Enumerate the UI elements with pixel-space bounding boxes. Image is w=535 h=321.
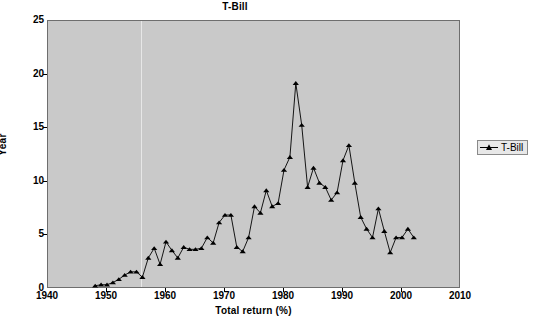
- legend: T-Bill: [477, 140, 528, 155]
- x-tick-mark: [224, 288, 225, 292]
- data-point-marker: [181, 245, 187, 249]
- data-point-marker: [163, 240, 169, 244]
- data-point-marker: [352, 181, 358, 185]
- y-tick-mark: [43, 74, 47, 75]
- data-point-marker: [275, 201, 281, 205]
- y-tick-mark: [43, 181, 47, 182]
- data-point-marker: [369, 235, 375, 239]
- data-point-marker: [381, 229, 387, 233]
- data-point-marker: [169, 248, 175, 252]
- data-point-marker: [334, 190, 340, 194]
- data-point-marker: [387, 250, 393, 254]
- chart-title: T-Bill: [0, 1, 470, 12]
- x-axis-title: Total return (%): [47, 305, 460, 316]
- legend-label-t-bill: T-Bill: [501, 142, 523, 153]
- data-point-marker: [151, 246, 157, 250]
- x-tick-mark: [342, 288, 343, 292]
- data-point-marker: [299, 123, 305, 127]
- data-point-marker: [340, 158, 346, 162]
- data-point-marker: [281, 168, 287, 172]
- y-tick-label: 20: [16, 68, 44, 79]
- series-line-t-bill: [95, 83, 414, 286]
- data-point-marker: [287, 155, 293, 159]
- data-point-marker: [263, 188, 269, 192]
- data-point-marker: [251, 204, 257, 208]
- x-tick-mark: [165, 288, 166, 292]
- y-tick-label: 25: [16, 14, 44, 25]
- data-point-marker: [346, 143, 352, 147]
- data-point-marker: [305, 185, 311, 189]
- data-series-layer: [48, 21, 461, 289]
- data-point-marker: [405, 227, 411, 231]
- plot-area: [47, 20, 460, 288]
- legend-marker-icon: [480, 142, 498, 153]
- data-point-marker: [246, 235, 252, 239]
- data-point-marker: [234, 245, 240, 249]
- data-point-marker: [358, 215, 364, 219]
- data-point-marker: [375, 206, 381, 210]
- data-point-marker: [364, 227, 370, 231]
- x-tick-mark: [106, 288, 107, 292]
- y-axis-title: Year: [0, 133, 8, 155]
- data-point-marker: [293, 81, 299, 85]
- y-tick-label: 5: [16, 228, 44, 239]
- data-point-marker: [328, 198, 334, 202]
- chart-container: T-Bill Year 0510152025 19401950196019701…: [0, 0, 535, 321]
- y-tick-label: 15: [16, 121, 44, 132]
- x-tick-mark: [401, 288, 402, 292]
- y-tick-label: 10: [16, 175, 44, 186]
- data-point-marker: [411, 235, 417, 239]
- y-tick-mark: [43, 127, 47, 128]
- data-point-marker: [204, 235, 210, 239]
- x-tick-label: 2010: [440, 290, 480, 301]
- x-axis-tick-labels: 19401950196019701980199020002010: [0, 290, 535, 304]
- y-tick-mark: [43, 234, 47, 235]
- data-point-marker: [145, 256, 151, 260]
- x-tick-label: 1940: [27, 290, 67, 301]
- data-point-marker: [310, 166, 316, 170]
- data-point-marker: [198, 246, 204, 250]
- data-point-marker: [157, 262, 163, 266]
- data-point-marker: [316, 181, 322, 185]
- data-point-marker: [175, 256, 181, 260]
- y-axis-tick-labels: 0510152025: [8, 20, 44, 288]
- x-tick-mark: [283, 288, 284, 292]
- data-point-marker: [216, 220, 222, 224]
- data-point-marker: [257, 211, 263, 215]
